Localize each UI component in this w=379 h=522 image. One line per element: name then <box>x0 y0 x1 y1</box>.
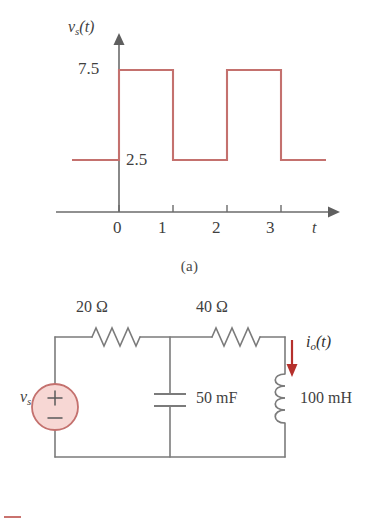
current-arrow-io <box>287 340 298 377</box>
page-edge-mark <box>4 516 21 518</box>
inductor-label: 100 mH <box>300 389 352 407</box>
y-tick-label-high: 7.5 <box>78 59 99 79</box>
x-axis-label: t <box>312 219 316 237</box>
x-tick-label-2: 2 <box>212 218 221 238</box>
current-label-io: io(t) <box>306 333 331 352</box>
resistor-20ohm-label: 20 Ω <box>76 298 108 316</box>
panel-circuit: 20 Ω 40 Ω vs 50 mF 100 mH io(t) (b) <box>0 292 379 522</box>
inductor-loop-2 <box>275 386 285 398</box>
y-tick-label-low: 2.5 <box>126 150 147 170</box>
circuit-schematic-svg <box>0 292 379 522</box>
resistor-40ohm-symbol <box>212 328 260 346</box>
current-arrow-head <box>287 364 298 377</box>
inductor-loop-4 <box>275 410 285 423</box>
x-tick-label-3: 3 <box>266 218 275 238</box>
capacitor-label: 50 mF <box>196 389 237 407</box>
capacitor-symbol <box>154 394 186 406</box>
panel-waveform: vs(t) 7.5 2.5 0 1 2 3 t (a) <box>0 0 379 292</box>
x-tick-label-1: 1 <box>158 218 167 238</box>
x-axis-arrowhead <box>328 207 340 218</box>
voltage-source-label: vs <box>20 388 31 407</box>
caption-panel-a: (a) <box>0 258 379 275</box>
resistor-40ohm-label: 40 Ω <box>196 298 228 316</box>
inductor-loop-3 <box>275 398 285 410</box>
y-axis-label-suffix: (t) <box>79 18 94 35</box>
x-tick-label-0: 0 <box>113 218 122 238</box>
y-axis-arrowhead <box>114 33 125 45</box>
voltage-source-label-sub: s <box>27 395 31 407</box>
current-label-suffix: (t) <box>316 333 331 350</box>
y-axis-label: vs(t) <box>68 18 94 37</box>
figure-root: vs(t) 7.5 2.5 0 1 2 3 t (a) <box>0 0 379 522</box>
waveform-plot-svg <box>0 0 379 292</box>
waveform-trace <box>72 70 326 160</box>
resistor-20ohm-symbol <box>92 328 140 346</box>
inductor-symbol <box>275 374 285 423</box>
inductor-loop-1 <box>275 374 285 386</box>
